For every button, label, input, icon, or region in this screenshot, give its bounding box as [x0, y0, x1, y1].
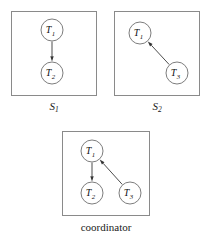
panel-coordinator: [62, 131, 150, 216]
panel-s1: [11, 11, 97, 96]
s2-caption-text: S2: [152, 101, 161, 114]
s1-caption-subscript: 1: [55, 105, 59, 114]
panel-s2: [114, 11, 200, 96]
s2-caption-subscript: 2: [158, 105, 162, 114]
coordinator-caption-text: coordinator: [81, 222, 132, 233]
task-dependency-figure: T1T2T1T3T1T2T3S1S2coordinator: [0, 0, 211, 242]
s1-caption-text: S1: [49, 101, 58, 114]
